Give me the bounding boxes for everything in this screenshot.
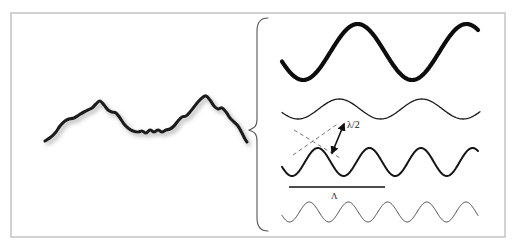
- big-lambda-label: Λ: [331, 191, 338, 201]
- surface-roughness-figure: λ/2 Λ: [0, 0, 523, 245]
- figure-canvas: λ/2 Λ: [0, 0, 523, 245]
- lambda-half-label: λ/2: [347, 119, 360, 130]
